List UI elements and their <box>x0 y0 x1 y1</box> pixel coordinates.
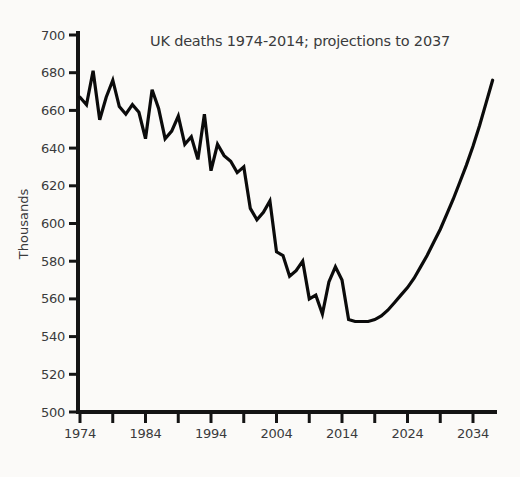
y-tick-label: 560 <box>41 291 65 306</box>
x-tick-label: 1994 <box>195 426 227 441</box>
y-tick-label: 660 <box>41 103 65 118</box>
x-tick-label: 2034 <box>457 426 489 441</box>
deaths-line <box>80 71 493 322</box>
x-tick-label: 2004 <box>261 426 293 441</box>
y-tick-label: 620 <box>41 178 65 193</box>
y-tick-label: 680 <box>41 65 65 80</box>
y-tick-label: 520 <box>41 367 65 382</box>
x-tick-label: 1974 <box>64 426 96 441</box>
x-tick-label: 2024 <box>392 426 424 441</box>
chart-container: UK deaths 1974-2014; projections to 2037… <box>0 0 520 477</box>
y-tick-label: 540 <box>41 329 65 344</box>
y-tick-label: 580 <box>41 254 65 269</box>
y-tick-label: 500 <box>41 405 65 420</box>
plot-area: 5005205405605806006206406606807001974198… <box>0 0 520 477</box>
x-tick-label: 1984 <box>130 426 162 441</box>
y-tick-label: 640 <box>41 141 65 156</box>
y-tick-label: 600 <box>41 216 65 231</box>
y-tick-label: 700 <box>41 28 65 43</box>
x-tick-label: 2014 <box>326 426 358 441</box>
